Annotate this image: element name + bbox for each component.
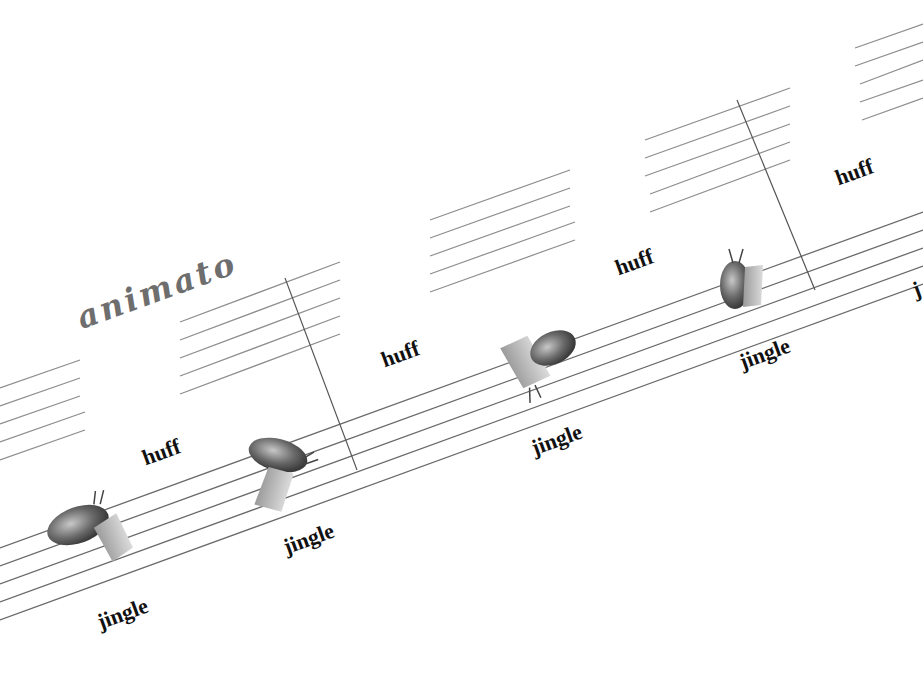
- instrument-2: [235, 432, 321, 518]
- main-staff: [0, 212, 923, 620]
- upper-staff-right: [430, 24, 923, 292]
- upper-staff-left: [0, 360, 85, 460]
- instrument-4: [720, 249, 763, 309]
- music-score-illustration: animato huff huff huff huff jingle jingl…: [0, 0, 923, 690]
